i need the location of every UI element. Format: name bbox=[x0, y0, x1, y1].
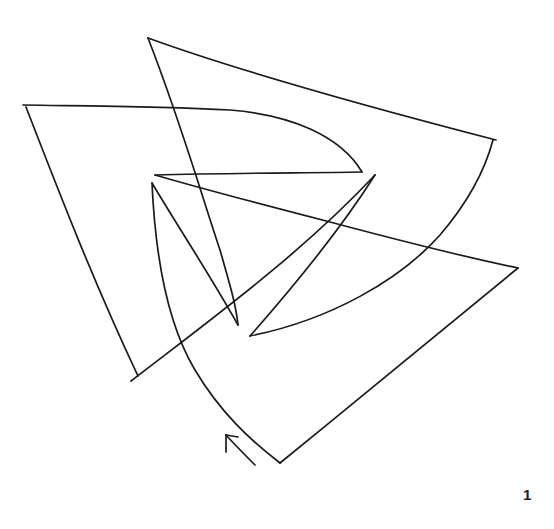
edge-top bbox=[148, 38, 496, 140]
edge-right-to-inner-left bbox=[155, 175, 518, 268]
page-number: 1 bbox=[523, 486, 531, 503]
edge-bottom-to-right bbox=[280, 268, 518, 463]
edge-left bbox=[26, 107, 138, 376]
edge-inner-horizontal bbox=[155, 172, 362, 175]
edge-top-to-inner-bottom bbox=[148, 38, 238, 325]
edge-inner-bottom-to-inner-left bbox=[152, 183, 238, 325]
continuous-line-figure bbox=[0, 0, 554, 529]
edge-inner-right-to-inner-bottom bbox=[250, 175, 375, 336]
arc-to-top-left bbox=[23, 105, 362, 172]
arc-to-top-right bbox=[250, 140, 493, 336]
edge-bottom-left-to-inner-right bbox=[131, 175, 375, 381]
